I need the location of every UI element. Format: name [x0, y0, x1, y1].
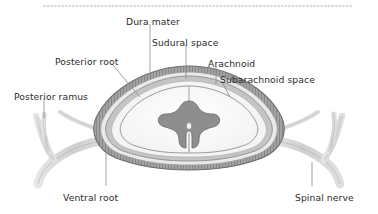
anatomy-illustration: [0, 0, 378, 214]
label-subarachnoid-space: Subarachnoid space: [220, 75, 315, 84]
central-canal: [186, 123, 191, 130]
label-sudural-space: Sudural space: [152, 38, 218, 47]
label-spinal-nerve: Spinal nerve: [295, 193, 354, 202]
label-posterior-ramus: Posterior ramus: [14, 92, 88, 101]
label-arachnoid: Arachnoid: [208, 59, 255, 68]
label-dura-mater: Dura mater: [126, 17, 180, 26]
spinal-cord-diagram: Dura mater Sudural space Arachnoid Subar…: [0, 0, 378, 214]
label-ventral-root: Ventral root: [63, 193, 118, 202]
label-posterior-root: Posterior root: [55, 57, 118, 66]
